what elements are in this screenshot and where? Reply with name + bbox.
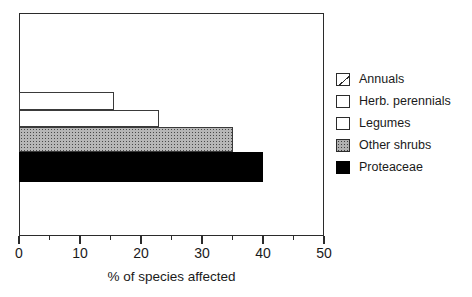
stipple-swatch-icon [336,139,350,152]
x-tick-major [140,236,142,244]
chart-legend: Annuals Herb. perennials Legumes Other s… [336,68,470,178]
x-tick-minor [171,236,173,240]
x-tick-minor [232,236,234,240]
legend-item-proteaceae: Proteaceae [336,156,470,178]
bar-other-shrubs [19,127,233,152]
x-tick-label: 10 [72,244,88,262]
x-tick-label: 50 [316,244,332,262]
x-tick-major [79,236,81,244]
x-tick-label: 40 [255,244,271,262]
x-axis-title: % of species affected [19,268,324,285]
bar-herb-perennials [19,92,114,110]
x-tick-label: 20 [133,244,149,262]
bar-chart-figure: 01020304050 % of species affected Annual… [0,0,472,297]
legend-item-herb-perennials: Herb. perennials [336,90,470,112]
legend-label: Proteaceae [359,160,423,175]
bar-proteaceae [19,152,263,182]
open-swatch-icon [336,95,350,108]
x-tick-minor [293,236,295,240]
diagonal-hatch-swatch-icon [336,73,350,86]
legend-label: Annuals [359,72,404,87]
x-tick-label: 30 [194,244,210,262]
x-tick-minor [110,236,112,240]
x-tick-major [262,236,264,244]
legend-item-other-shrubs: Other shrubs [336,134,470,156]
x-axis-tick-labels: 01020304050 [19,244,324,264]
x-tick-major [323,236,325,244]
open-swatch-icon [336,117,350,130]
legend-label: Other shrubs [359,138,431,153]
legend-label: Legumes [359,116,410,131]
legend-item-annuals: Annuals [336,68,470,90]
solid-swatch-icon [336,161,350,174]
x-tick-major [201,236,203,244]
x-tick-minor [49,236,51,240]
x-tick-major [18,236,20,244]
bars-layer [19,13,324,236]
legend-item-legumes: Legumes [336,112,470,134]
bar-legumes [19,110,159,127]
legend-label: Herb. perennials [359,94,451,109]
x-tick-label: 0 [15,244,23,262]
